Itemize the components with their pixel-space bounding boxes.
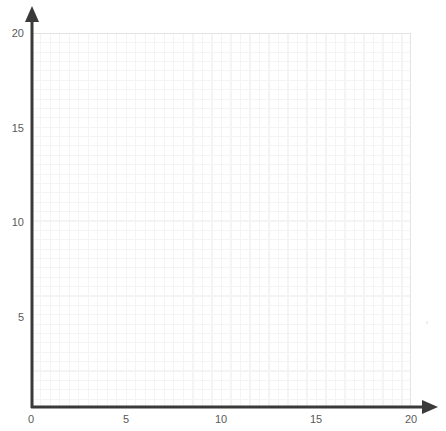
y-tick-label-20: 20 — [2, 28, 24, 39]
y-tick-label-5: 5 — [2, 311, 24, 322]
y-tick-label-10: 10 — [2, 217, 24, 228]
x-axis-arrowhead — [422, 400, 438, 414]
x-tick-label-15: 15 — [310, 414, 322, 425]
x-tick-label-10: 10 — [215, 414, 227, 425]
y-axis-arrowhead — [25, 6, 39, 22]
y-tick-label-15: 15 — [2, 122, 24, 133]
x-tick-label-0: 0 — [28, 414, 34, 425]
coordinate-grid-chart: 20 15 10 5 0 5 10 15 20 — [0, 0, 446, 431]
x-tick-label-5: 5 — [123, 414, 129, 425]
x-tick-label-20: 20 — [405, 414, 417, 425]
axes-layer — [0, 0, 446, 431]
